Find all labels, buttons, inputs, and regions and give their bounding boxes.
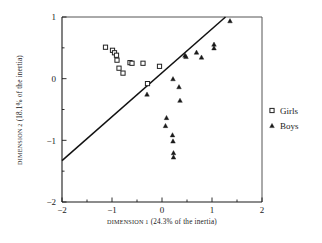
legend: GirlsBoys bbox=[270, 106, 299, 131]
boys-data-point bbox=[228, 19, 233, 23]
boys-data-point bbox=[171, 155, 176, 159]
girls-data-point bbox=[121, 71, 125, 75]
girls-data-point bbox=[103, 45, 107, 49]
boys-data-point bbox=[164, 115, 169, 119]
x-tick-label: 0 bbox=[160, 205, 165, 215]
girls-data-point bbox=[114, 53, 118, 57]
scatter-plot-figure: −2−1012 −2−101 DIMENSION 1 (24.3% of the… bbox=[0, 0, 322, 243]
y-tick-label: 1 bbox=[52, 12, 57, 22]
boys-data-point bbox=[145, 92, 150, 96]
plot-canvas: −2−1012 −2−101 DIMENSION 1 (24.3% of the… bbox=[0, 0, 322, 243]
boys-data-point bbox=[178, 98, 183, 102]
boys-data-point bbox=[199, 55, 204, 59]
girls-data-point bbox=[157, 64, 161, 68]
x-tick-label: −2 bbox=[57, 205, 67, 215]
y-axis-ticks bbox=[62, 17, 67, 202]
legend-item-label: Boys bbox=[280, 121, 299, 131]
legend-item-label: Girls bbox=[280, 106, 298, 116]
y-tick-label: −1 bbox=[46, 136, 56, 146]
boys-data-point bbox=[194, 50, 199, 54]
plot-frame bbox=[62, 17, 262, 202]
x-tick-label: 2 bbox=[260, 205, 265, 215]
boys-data-point bbox=[177, 85, 182, 89]
girls-data-point bbox=[145, 82, 149, 86]
boys-data-point bbox=[163, 123, 168, 127]
y-tick-label: −2 bbox=[46, 197, 56, 207]
boys-data-point bbox=[171, 151, 176, 155]
x-axis-tick-labels: −2−1012 bbox=[57, 205, 264, 215]
girls-data-point bbox=[130, 61, 134, 65]
x-axis-title: DIMENSION 1 (24.3% of the inertia) bbox=[107, 218, 217, 226]
boys-data-point bbox=[171, 77, 176, 81]
y-axis-tick-labels: −2−101 bbox=[46, 12, 56, 207]
y-axis-title: DIMENSION 2 (18.1% of the inertia) bbox=[16, 55, 24, 165]
girls-data-point bbox=[270, 108, 274, 112]
x-tick-label: 1 bbox=[210, 205, 215, 215]
boys-data-point bbox=[170, 133, 175, 137]
girls-data-point bbox=[115, 58, 119, 62]
y-tick-label: 0 bbox=[52, 74, 57, 84]
series-boys-points bbox=[145, 19, 233, 160]
girls-data-point bbox=[117, 66, 121, 70]
series-girls-points bbox=[103, 45, 161, 86]
boys-data-point bbox=[270, 123, 275, 127]
diagonal-trend-line bbox=[62, 17, 226, 161]
trend-line-segment bbox=[62, 17, 226, 161]
girls-data-point bbox=[141, 61, 145, 65]
x-axis-ticks bbox=[62, 198, 262, 203]
boys-data-point bbox=[171, 139, 176, 143]
x-tick-label: −1 bbox=[107, 205, 117, 215]
